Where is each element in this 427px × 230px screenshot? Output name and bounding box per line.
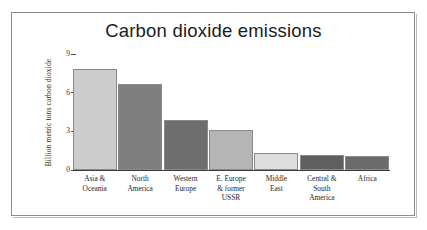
category-label-line: America: [295, 193, 348, 203]
y-tick-label: 3: [66, 126, 70, 136]
bar-3: [164, 120, 208, 170]
chart-title: Carbon dioxide emissions: [0, 20, 427, 42]
bar-5: [254, 153, 298, 170]
chart-figure: Carbon dioxide emissions Billion metric …: [0, 0, 427, 230]
bar-7: [345, 156, 389, 170]
y-tick-label: 9: [66, 49, 70, 59]
x-axis-line: [72, 170, 390, 171]
bar-4: [209, 130, 253, 170]
y-tick-label: 6: [66, 88, 70, 98]
x-axis-category-labels: Asia &OceaniaNorthAmericaWesternEuropeE.…: [72, 174, 390, 216]
category-label-line: USSR: [204, 193, 257, 203]
bar-6: [300, 155, 344, 170]
bar-2: [118, 84, 162, 170]
category-label-line: South: [295, 184, 348, 194]
category-label-line: Africa: [341, 174, 394, 184]
bar-series: [72, 54, 390, 170]
category-label-7: Africa: [341, 174, 394, 184]
bar-1: [73, 69, 117, 170]
y-axis-title: Billion metric tons carbon dioxide: [44, 48, 53, 178]
